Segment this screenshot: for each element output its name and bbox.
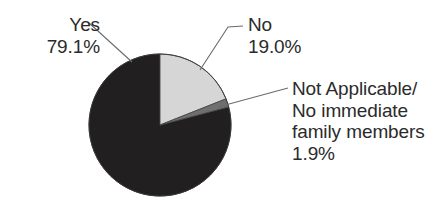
slice-label-no-name: No xyxy=(248,14,301,36)
slice-label-no: No 19.0% xyxy=(248,14,301,57)
slice-label-yes-name: Yes xyxy=(4,14,100,36)
pie-chart-figure: Yes 79.1% No 19.0% Not Applicable/ No im… xyxy=(0,0,438,202)
slice-label-na-line2: No immediate xyxy=(292,100,425,122)
slice-label-na-percent: 1.9% xyxy=(292,143,425,165)
slice-label-na-line1: Not Applicable/ xyxy=(292,78,425,100)
leader-line-no xyxy=(200,26,243,70)
leader-line-not-applicable xyxy=(218,88,288,107)
slice-label-not-applicable: Not Applicable/ No immediate family memb… xyxy=(292,78,425,164)
slice-label-no-percent: 19.0% xyxy=(248,36,301,58)
slice-label-yes: Yes 79.1% xyxy=(4,14,100,57)
slice-label-yes-percent: 79.1% xyxy=(4,36,100,58)
slice-label-na-line3: family members xyxy=(292,121,425,143)
